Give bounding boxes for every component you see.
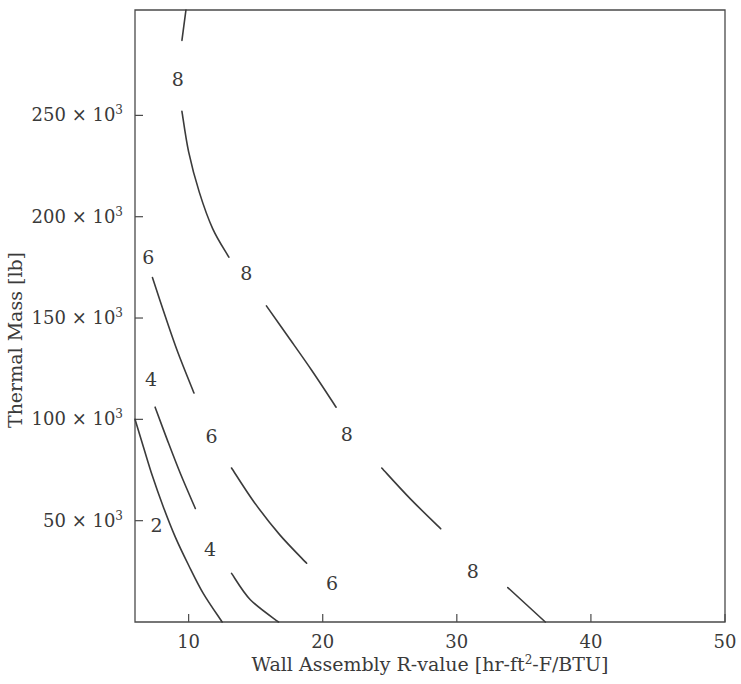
plot-area-background — [135, 10, 725, 622]
contour-label-8: 8 — [172, 68, 184, 90]
y-tick-label: 200 × 103 — [32, 205, 123, 227]
contour-label-4: 4 — [145, 368, 157, 390]
contour-plot-figure: 2446668888 1020304050 50 × 103100 × 1031… — [0, 0, 741, 684]
x-tick-label: 50 — [714, 631, 737, 652]
contour-label-6: 6 — [326, 572, 338, 594]
x-axis-title: Wall Assembly R-value [hr-ft2-F/BTU] — [252, 653, 609, 675]
contour-label-4: 4 — [204, 538, 216, 560]
x-tick-label: 40 — [579, 631, 602, 652]
x-axis-tick-labels: 1020304050 — [177, 631, 736, 652]
y-tick-label: 250 × 103 — [32, 103, 123, 125]
contour-label-8: 8 — [240, 262, 252, 284]
y-tick-label: 150 × 103 — [32, 306, 123, 328]
plot-svg: 2446668888 1020304050 50 × 103100 × 1031… — [0, 0, 741, 684]
contour-label-8: 8 — [467, 560, 479, 582]
plot-frame — [135, 10, 725, 622]
contour-label-6: 6 — [205, 425, 217, 447]
x-tick-label: 30 — [445, 631, 468, 652]
x-tick-label: 10 — [177, 631, 200, 652]
contour-label-8: 8 — [341, 423, 353, 445]
x-tick-label: 20 — [311, 631, 334, 652]
contour-label-2: 2 — [150, 514, 162, 536]
contour-label-6: 6 — [142, 246, 154, 268]
y-tick-label: 100 × 103 — [32, 407, 123, 429]
y-axis-tick-labels: 50 × 103100 × 103150 × 103200 × 103250 ×… — [32, 103, 123, 530]
y-tick-label: 50 × 103 — [43, 509, 123, 531]
y-axis-title: Thermal Mass [lb] — [4, 252, 26, 428]
